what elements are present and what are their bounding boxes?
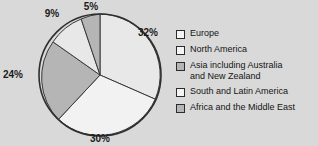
legend-item-europe[interactable]: Europe	[176, 28, 318, 39]
legend-item-label: Asia including Australia and New Zealand	[190, 60, 283, 81]
legend-item-north-america[interactable]: North America	[176, 44, 318, 55]
legend: Europe North America Asia including Aust…	[176, 28, 318, 113]
legend-item-asia[interactable]: Asia including Australia and New Zealand	[176, 60, 318, 81]
pie-label-europe: 32%	[138, 27, 158, 38]
pie-label-south-latin-america: 9%	[45, 8, 60, 19]
legend-item-south-latin-america[interactable]: South and Latin America	[176, 86, 318, 97]
legend-item-label: Africa and the Middle East	[190, 102, 295, 113]
legend-item-label: North America	[190, 44, 247, 55]
pie-label-north-america: 30%	[90, 133, 110, 144]
pie-chart-area: 32% 30% 24% 9% 5%	[0, 0, 176, 146]
pie-label-africa-middle-east: 5%	[84, 1, 99, 12]
legend-item-label: South and Latin America	[190, 86, 288, 97]
legend-swatch-icon	[176, 46, 185, 55]
legend-swatch-icon	[176, 62, 185, 71]
legend-swatch-icon	[176, 30, 185, 39]
pie-chart-svg: 32% 30% 24% 9% 5%	[0, 0, 176, 146]
legend-item-africa-middle-east[interactable]: Africa and the Middle East	[176, 102, 318, 113]
legend-swatch-icon	[176, 88, 185, 97]
pie-label-asia: 24%	[3, 69, 23, 80]
legend-item-label: Europe	[190, 28, 219, 39]
pie-chart-figure: 32% 30% 24% 9% 5% Europe North America A…	[0, 0, 318, 146]
legend-swatch-icon	[176, 104, 185, 113]
